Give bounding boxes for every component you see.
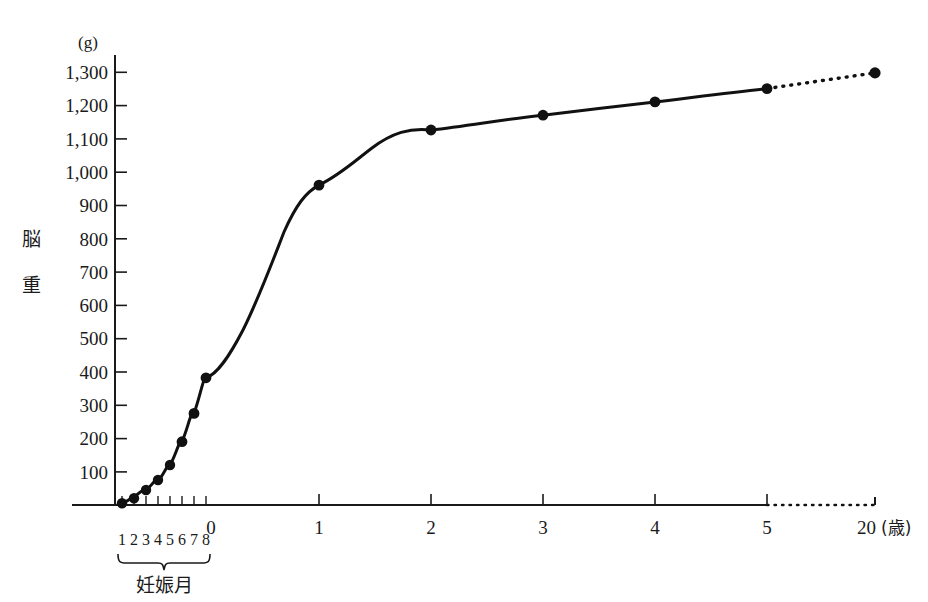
data-point-fetal-month-3 — [141, 485, 151, 495]
brain-weight-curve — [122, 89, 767, 504]
data-point-year-5 — [762, 83, 773, 94]
x-tick-label-1: 1 — [314, 517, 324, 538]
data-point-year-20 — [869, 67, 880, 78]
chart-canvas: 1,300 1,200 1,100 1,000 900 800 700 600 … — [0, 0, 928, 602]
x-tick-label-20: 20 — [857, 517, 876, 538]
data-point-year-2 — [426, 125, 437, 136]
y-tick-marks — [115, 72, 127, 472]
y-axis-unit-label: (g) — [78, 33, 98, 52]
x-tick-label-4: 4 — [650, 517, 660, 538]
fetal-month-label-1: 1 — [118, 531, 126, 548]
data-point-fetal-month-7 — [189, 408, 200, 419]
y-tick-label-600: 600 — [80, 295, 109, 316]
y-axis-title-char-1: 脳 — [22, 228, 41, 250]
y-axis-title-char-2: 重 — [22, 274, 41, 296]
fetal-month-label-3: 3 — [142, 531, 150, 548]
x-tick-label-5: 5 — [762, 517, 772, 538]
data-point-year-3 — [538, 110, 549, 121]
y-tick-label-1200: 1,200 — [65, 95, 108, 116]
brain-weight-curve-extrapolated — [767, 73, 875, 89]
y-tick-label-900: 900 — [80, 195, 109, 216]
y-tick-label-400: 400 — [80, 362, 109, 383]
x-tick-label-0: 0 — [206, 517, 216, 538]
fetal-month-label-4: 4 — [154, 531, 162, 548]
fetal-month-label-7: 7 — [190, 531, 198, 548]
data-point-fetal-month-1 — [117, 498, 127, 508]
y-tick-label-200: 200 — [80, 428, 109, 449]
y-tick-label-1100: 1,100 — [65, 129, 108, 150]
x-tick-label-3: 3 — [538, 517, 548, 538]
x-axis-unit-label: (歳) — [881, 518, 911, 538]
data-point-markers — [117, 67, 881, 508]
fetal-month-label-6: 6 — [178, 531, 186, 548]
data-point-fetal-month-2 — [129, 493, 139, 503]
y-tick-label-100: 100 — [80, 462, 109, 483]
y-tick-label-1300: 1,300 — [65, 62, 108, 83]
data-point-fetal-month-4 — [153, 475, 163, 485]
brain-weight-growth-chart: 1,300 1,200 1,100 1,000 900 800 700 600 … — [0, 0, 928, 602]
data-point-year-1 — [314, 180, 325, 191]
fetal-month-label-2: 2 — [130, 531, 138, 548]
y-tick-label-700: 700 — [80, 262, 109, 283]
y-tick-label-500: 500 — [80, 328, 109, 349]
fetal-period-brace — [118, 554, 210, 570]
y-tick-label-1000: 1,000 — [65, 162, 108, 183]
x-tick-label-2: 2 — [426, 517, 436, 538]
fetal-month-label-5: 5 — [166, 531, 174, 548]
data-point-fetal-month-5 — [165, 460, 175, 470]
data-point-year-4 — [650, 97, 661, 108]
y-tick-label-800: 800 — [80, 229, 109, 250]
data-point-fetal-month-6 — [177, 436, 188, 447]
year-tick-marks — [319, 494, 767, 505]
y-tick-label-300: 300 — [80, 395, 109, 416]
fetal-period-label: 妊娠月 — [136, 574, 193, 596]
data-point-fetal-month-8 — [201, 372, 212, 383]
